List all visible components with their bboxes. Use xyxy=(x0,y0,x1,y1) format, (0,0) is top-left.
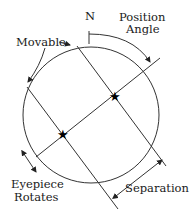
position-angle-label-2: Angle xyxy=(125,22,160,36)
north-label: N xyxy=(85,9,95,23)
position-angle-diagram: N Position Angle Separation ★ ★ Movable … xyxy=(0,0,190,221)
separation-label: Separation xyxy=(125,181,189,195)
eyepiece-label-2: Rotates xyxy=(14,190,58,204)
eyepiece-label: Eyepiece xyxy=(11,177,64,191)
star-icon: ★ xyxy=(57,127,69,142)
rotate-double-arrow xyxy=(24,154,36,172)
movable-label: Movable xyxy=(16,35,66,49)
position-angle-arc xyxy=(89,34,150,62)
eyepiece-field-circle xyxy=(23,47,159,183)
movable-pointer-2 xyxy=(28,48,45,82)
star-icon: ★ xyxy=(109,89,121,104)
star-axis-line xyxy=(36,58,160,157)
